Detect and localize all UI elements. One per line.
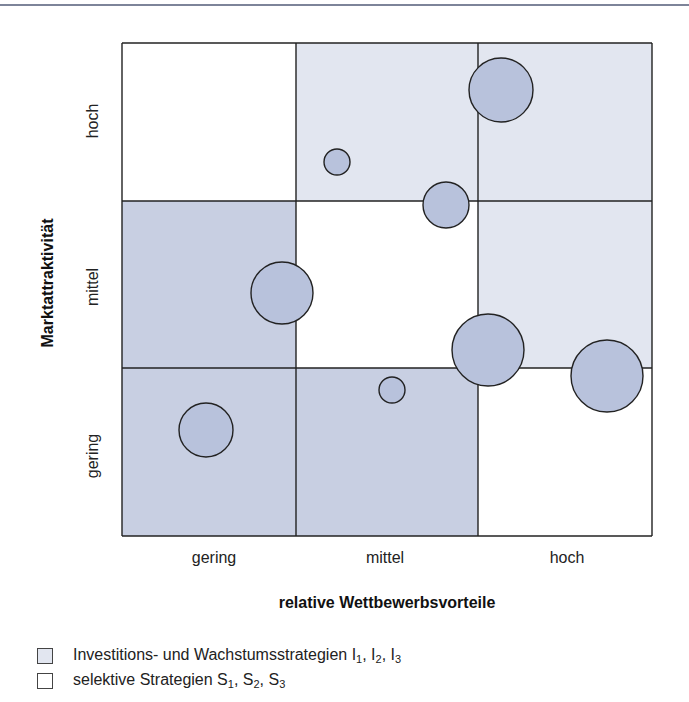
bubble-2	[324, 149, 350, 175]
bubble-3	[423, 182, 469, 228]
bubble-7	[379, 377, 405, 403]
legend-item-investment: Investitions- und Wachstumsstrategien I1…	[37, 646, 401, 665]
y-tick-gering: gering	[84, 434, 102, 478]
legend-label-selective: selektive Strategien S1, S2, S3	[73, 671, 285, 690]
cell-mittel-hoch	[296, 43, 478, 201]
legend-swatch-selective	[37, 673, 53, 689]
x-axis-title: relative Wettbewerbsvorteile	[279, 594, 496, 612]
cell-gering-hoch	[122, 43, 296, 201]
y-tick-mittel: mittel	[84, 268, 102, 306]
bubble-1	[469, 58, 533, 122]
x-tick-mittel: mittel	[366, 549, 404, 567]
y-axis-title: Marktattraktivität	[39, 219, 57, 348]
legend-label-investment: Investitions- und Wachstumsstrategien I1…	[73, 646, 401, 665]
bubble-4	[251, 262, 313, 324]
legend-item-selective: selektive Strategien S1, S2, S3	[37, 671, 285, 690]
legend-swatch-investment	[37, 648, 53, 664]
y-tick-hoch: hoch	[84, 104, 102, 139]
x-tick-hoch: hoch	[550, 549, 585, 567]
bubble-8	[179, 403, 233, 457]
bubble-6	[571, 340, 643, 412]
matrix-cells	[122, 43, 652, 536]
x-tick-gering: gering	[192, 549, 236, 567]
bubble-5	[452, 314, 524, 386]
